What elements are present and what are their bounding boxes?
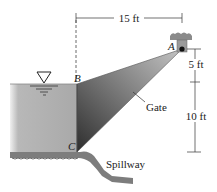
point-C-label: C bbox=[68, 140, 76, 152]
dimension-10ft-label: 10 ft bbox=[186, 110, 206, 122]
gate-label: Gate bbox=[146, 101, 167, 113]
point-B-label: B bbox=[74, 72, 81, 84]
gate-leader-line bbox=[133, 92, 145, 102]
water-body bbox=[10, 84, 77, 152]
ground-texture bbox=[12, 158, 78, 159]
gate-diagram: 15 ft 5 ft 10 ft A B C Gate Spillway bbox=[0, 0, 217, 192]
dimension-15ft-label: 15 ft bbox=[119, 12, 139, 24]
point-A-label: A bbox=[167, 40, 175, 52]
spillway-label: Spillway bbox=[106, 158, 146, 170]
dimension-5ft-label: 5 ft bbox=[189, 58, 204, 70]
